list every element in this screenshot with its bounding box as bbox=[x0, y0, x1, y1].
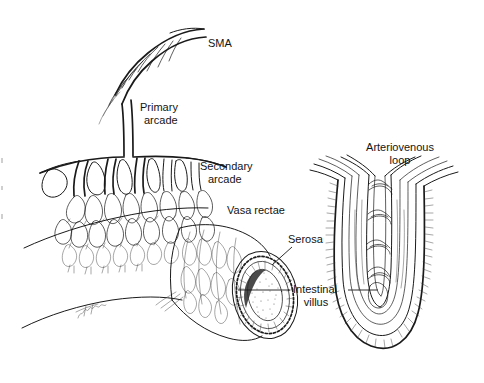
label-intestinal-villus-line1: Intestinal bbox=[293, 283, 337, 295]
label-arteriovenous-loop-line1: Arteriovenous bbox=[366, 141, 434, 153]
label-secondary-arcade-line2: arcade bbox=[208, 173, 242, 185]
bowel-cross-section bbox=[225, 245, 306, 344]
label-serosa: Serosa bbox=[288, 233, 324, 245]
label-arteriovenous-loop-line2: loop bbox=[390, 154, 411, 166]
label-primary-arcade-line2: arcade bbox=[144, 114, 178, 126]
figure-canvas: SMA Primary arcade Secondary arcade Vasa… bbox=[0, 0, 484, 383]
capillary-cross-links bbox=[367, 180, 392, 308]
label-intestinal-villus-line2: villus bbox=[304, 296, 329, 308]
right-panel-group bbox=[310, 155, 458, 348]
left-panel-group bbox=[22, 28, 305, 344]
label-sma: SMA bbox=[208, 37, 233, 49]
scan-artifacts bbox=[1, 158, 3, 219]
sma-vessel bbox=[115, 28, 206, 104]
label-secondary-arcade-line1: Secondary bbox=[200, 160, 253, 172]
vasa-rectae-network bbox=[55, 191, 215, 275]
anatomy-figure: SMA Primary arcade Secondary arcade Vasa… bbox=[0, 0, 484, 383]
label-primary-arcade-line1: Primary bbox=[140, 101, 178, 113]
central-vessel-column bbox=[341, 155, 421, 307]
villus-core-shading bbox=[355, 200, 405, 290]
secondary-arcade-vessels bbox=[40, 156, 226, 197]
label-vasa-rectae: Vasa rectae bbox=[227, 204, 285, 216]
primary-arcade-vessel bbox=[122, 100, 133, 156]
